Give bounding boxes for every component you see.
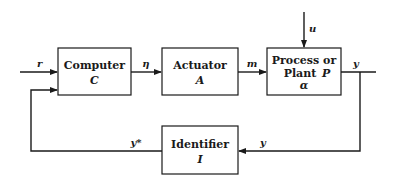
signal-eta-label: η [142, 58, 149, 69]
plant-parameter: α [300, 79, 309, 92]
plant-label-line1: Process or [272, 54, 337, 67]
plant-symbol: P [321, 67, 331, 80]
computer-symbol: C [90, 74, 99, 87]
signal-u-label: u [309, 23, 316, 34]
actuator-block: Actuator A [162, 48, 238, 95]
signal-y-feedback-label: y [259, 137, 267, 148]
estimate-feedback-arrow [31, 90, 162, 151]
computer-label: Computer [64, 59, 125, 72]
control-block-diagram: r Computer C η Actuator A m u Process or… [0, 0, 396, 189]
actuator-label: Actuator [172, 59, 227, 72]
computer-block: Computer C [58, 48, 131, 95]
actuator-symbol: A [195, 74, 205, 87]
signal-m-label: m [247, 58, 258, 69]
signal-r-label: r [37, 58, 43, 69]
identifier-block: Identifier I [162, 126, 238, 174]
signal-ystar-label: y* [129, 137, 142, 148]
plant-block: Process or Plant P α [267, 48, 341, 95]
identifier-label: Identifier [171, 138, 229, 151]
signal-y-label: y [352, 58, 360, 69]
identifier-symbol: I [196, 153, 203, 166]
